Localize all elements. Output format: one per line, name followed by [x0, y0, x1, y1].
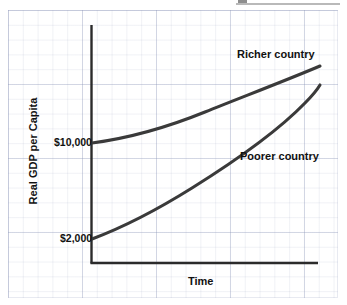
- series-label-richer-country: Richer country: [237, 48, 315, 60]
- x-axis-title: Time: [188, 275, 213, 287]
- chart-figure: $10,000 $2,000 Richer country Poorer cou…: [0, 0, 347, 305]
- y-axis-title: Real GDP per Capita: [27, 96, 39, 206]
- series-label-poorer-country: Poorer country: [240, 150, 319, 162]
- y-tick-label-10000: $10,000: [54, 136, 92, 148]
- series-line-poorer-country: [92, 85, 320, 239]
- y-tick-label-2000: $2,000: [60, 232, 92, 244]
- series-line-richer-country: [92, 66, 320, 143]
